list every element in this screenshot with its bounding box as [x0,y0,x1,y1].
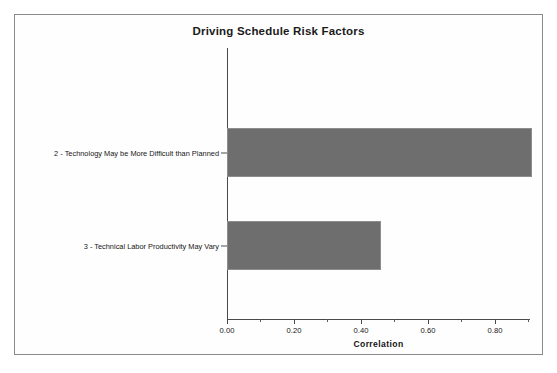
bar-technology-may-be-more-difficult-than-planned[interactable]: 2 - Technology May be More Difficult tha… [227,128,532,177]
x-tick-minor-4 [528,319,529,322]
x-tick-label-0: 0.00 [220,326,235,335]
x-tick-label-1: 0.20 [287,326,302,335]
x-tick-minor-0 [260,319,261,322]
x-tick-major-4 [495,319,496,324]
x-tick-label-4: 0.80 [488,326,503,335]
x-tick-minor-3 [461,319,462,322]
x-tick-label-2: 0.40 [354,326,369,335]
x-axis-line [227,319,530,320]
y-axis-tick-icon [221,152,227,153]
x-tick-major-0 [227,319,228,324]
x-tick-major-3 [428,319,429,324]
bar-label-technical-labor-productivity-may-vary: 3 - Technical Labor Productivity May Var… [84,241,219,250]
x-tick-label-3: 0.60 [421,326,436,335]
x-tick-major-1 [294,319,295,324]
x-tick-minor-1 [327,319,328,322]
x-tick-major-2 [361,319,362,324]
bar-label-technology-may-be-more-difficult-than-planned: 2 - Technology May be More Difficult tha… [54,148,219,157]
x-axis-title: Correlation [227,339,530,349]
plot-area: 2 - Technology May be More Difficult tha… [227,48,544,319]
x-tick-minor-2 [394,319,395,322]
bar-technical-labor-productivity-may-vary[interactable]: 3 - Technical Labor Productivity May Var… [227,221,381,270]
chart-title: Driving Schedule Risk Factors [15,25,542,37]
y-axis-tick-icon [221,245,227,246]
chart-figure: Driving Schedule Risk Factors 2 - Techno… [14,14,543,355]
y-axis-line [227,48,228,319]
